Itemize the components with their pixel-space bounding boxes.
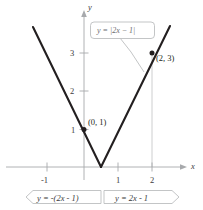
y-tick-label-1: 1 bbox=[71, 126, 75, 135]
x-tick-label--1: -1 bbox=[41, 176, 48, 185]
y-tick-label-2: 2 bbox=[70, 87, 74, 96]
x-tick-label-1: 1 bbox=[116, 176, 120, 185]
x-tick-label-2: 2 bbox=[150, 176, 154, 185]
bracket-label-left: y = -(2x - 1) bbox=[37, 194, 79, 203]
y-axis-label: y bbox=[88, 3, 92, 12]
graph-labels-layer: x y -1 1 2 3 2 1 (0, 1) (2, 3) y = |2x −… bbox=[0, 0, 203, 210]
absolute-value-graph-figure: x y -1 1 2 3 2 1 (0, 1) (2, 3) y = |2x −… bbox=[0, 0, 203, 210]
point-label-0-1: (0, 1) bbox=[88, 118, 106, 127]
x-axis-label: x bbox=[191, 162, 195, 171]
callout-label: y = |2x − 1| bbox=[97, 27, 135, 35]
y-tick-label-3: 3 bbox=[70, 49, 74, 58]
bracket-label-right: y = 2x - 1 bbox=[115, 194, 148, 203]
point-label-2-3: (2, 3) bbox=[156, 54, 174, 63]
